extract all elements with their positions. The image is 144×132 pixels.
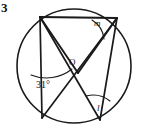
angle-label-l: l (97, 104, 100, 113)
angle-label-m: m (94, 19, 101, 28)
angle-label-31-degrees: 31° (36, 80, 50, 90)
center-label-o: O (69, 58, 76, 67)
chord-top (40, 17, 117, 18)
diagonal-a-d (40, 17, 100, 120)
problem-number: 3 (1, 1, 8, 14)
angle-arc-l (86, 95, 110, 101)
figure-canvas: 3 O m 31° l (0, 0, 144, 132)
angle-arc-31 (31, 69, 72, 78)
chord-left (40, 17, 42, 118)
